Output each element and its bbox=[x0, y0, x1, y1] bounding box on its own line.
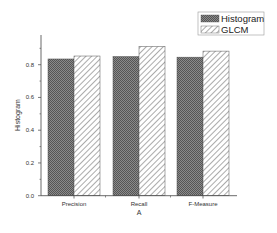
y-tick-label: 0.6 bbox=[26, 94, 35, 100]
y-axis-title: Histogram bbox=[14, 99, 22, 131]
x-tick-label-f-measure: F-Measure bbox=[188, 201, 218, 207]
y-tick-label: 0.8 bbox=[26, 62, 35, 68]
bar-glcm-recall bbox=[139, 47, 165, 196]
y-tick-label: 0.4 bbox=[26, 127, 35, 133]
bar-histogram-f-measure bbox=[177, 57, 203, 196]
legend-swatch-histogram bbox=[201, 15, 219, 22]
bar-glcm-precision bbox=[74, 56, 100, 196]
x-axis-title: A bbox=[137, 209, 142, 216]
y-tick-label: 0.0 bbox=[26, 193, 35, 199]
bars-group bbox=[48, 47, 229, 196]
x-axis-ticks: PrecisionRecallF-Measure bbox=[62, 196, 219, 207]
bar-glcm-f-measure bbox=[203, 51, 229, 196]
legend-swatch-glcm bbox=[201, 26, 219, 33]
legend: Histogram GLCM bbox=[198, 12, 264, 35]
legend-label-histogram: Histogram bbox=[221, 13, 264, 24]
bar-histogram-recall bbox=[113, 57, 139, 196]
y-axis-ticks: 0.00.20.40.60.8 bbox=[26, 48, 41, 198]
x-tick-label-precision: Precision bbox=[62, 201, 87, 207]
legend-label-glcm: GLCM bbox=[221, 24, 249, 35]
y-tick-label: 0.2 bbox=[26, 160, 35, 166]
x-tick-label-recall: Recall bbox=[131, 201, 148, 207]
bar-histogram-precision bbox=[48, 59, 74, 196]
bar-chart: 0.00.20.40.60.8 PrecisionRecallF-Measure… bbox=[0, 0, 277, 233]
plot-area: 0.00.20.40.60.8 PrecisionRecallF-Measure… bbox=[14, 35, 237, 216]
